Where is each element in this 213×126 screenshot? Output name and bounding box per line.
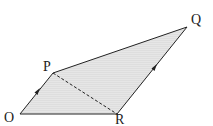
vector-diagram: O P R Q xyxy=(0,0,213,126)
label-P: P xyxy=(43,59,51,74)
label-R: R xyxy=(115,112,125,126)
label-O: O xyxy=(4,110,14,125)
label-Q: Q xyxy=(191,12,201,27)
